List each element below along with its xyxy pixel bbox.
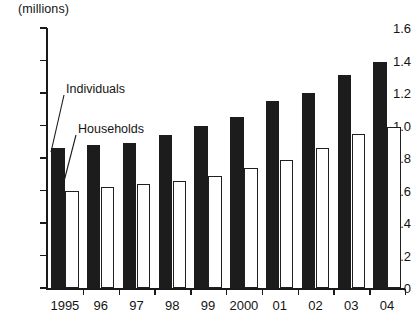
bar-households-98 (173, 181, 187, 288)
bar-households-1995 (65, 191, 79, 289)
x-axis-tick (405, 289, 406, 295)
x-axis-tick (154, 289, 155, 295)
x-axis-tick-label-2000: 2000 (229, 298, 258, 313)
bar-individuals-03 (338, 75, 352, 288)
bar-individuals-98 (159, 135, 173, 288)
x-axis-tick-label-01: 01 (272, 298, 286, 313)
bar-individuals-97 (123, 143, 137, 288)
bar-households-01 (280, 160, 294, 288)
x-axis-tick-label-96: 96 (93, 298, 107, 313)
bar-individuals-99 (194, 126, 208, 289)
plot-area (47, 28, 405, 288)
x-axis-tick-label-1995: 1995 (50, 298, 79, 313)
bar-households-99 (208, 176, 222, 288)
bar-individuals-01 (266, 101, 280, 288)
bar-households-97 (137, 184, 151, 288)
bar-individuals-2000 (230, 117, 244, 288)
bar-individuals-1995 (51, 148, 65, 288)
bar-chart: (millions) 00.20.40.60.81.01.21.41.6 199… (0, 0, 411, 328)
x-axis-tick (190, 289, 191, 295)
x-axis-tick-label-98: 98 (165, 298, 179, 313)
bar-households-2000 (244, 168, 258, 288)
bar-households-02 (316, 148, 330, 288)
x-axis-tick-label-02: 02 (308, 298, 322, 313)
annotation-label-individuals: Individuals (66, 82, 125, 96)
x-axis-tick-label-04: 04 (380, 298, 394, 313)
x-axis-tick (262, 289, 263, 295)
x-axis-tick-label-03: 03 (344, 298, 358, 313)
bar-households-04 (387, 127, 401, 288)
bar-individuals-04 (373, 62, 387, 288)
bar-households-96 (101, 187, 115, 288)
bar-individuals-02 (302, 93, 316, 288)
x-axis-tick-label-97: 97 (129, 298, 143, 313)
annotation-label-households: Households (78, 122, 144, 136)
x-axis-tick (298, 289, 299, 295)
y-axis-unit-label: (millions) (18, 2, 69, 16)
x-axis-tick (333, 289, 334, 295)
x-axis-tick (369, 289, 370, 295)
x-axis-tick (83, 289, 84, 295)
bar-households-03 (352, 134, 366, 288)
bar-individuals-96 (87, 145, 101, 288)
x-axis-tick (119, 289, 120, 295)
x-axis-tick-label-99: 99 (201, 298, 215, 313)
x-axis-tick (226, 289, 227, 295)
